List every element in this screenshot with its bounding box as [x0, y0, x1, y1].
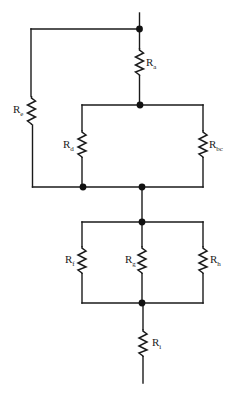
label-rbc: Rbc	[209, 138, 223, 153]
label-ri: Ri	[152, 336, 161, 351]
resistor-re	[28, 96, 36, 125]
resistor-ri	[139, 329, 147, 357]
circuit-diagram: Ra Re Rd Rbc Rf Rg Rh	[0, 0, 237, 402]
resistor-rh	[199, 246, 207, 274]
resistor-rf	[78, 246, 86, 274]
label-ra: Ra	[146, 56, 157, 71]
junction-top	[136, 26, 143, 33]
label-rf: Rf	[65, 253, 75, 268]
resistor-rbc	[199, 130, 207, 158]
junction-bottom-left	[80, 184, 87, 191]
junction-lower-top	[139, 219, 146, 226]
label-rd: Rd	[63, 138, 74, 153]
junction-bottom-center	[139, 184, 146, 191]
label-rh: Rh	[210, 253, 221, 268]
resistor-rg	[138, 246, 146, 274]
label-rg: Rg	[125, 253, 136, 268]
label-re: Re	[13, 103, 23, 118]
resistor-rd	[78, 130, 86, 158]
junction-lower-bottom	[139, 300, 146, 307]
resistor-ra	[136, 48, 144, 76]
junction-upper-middle	[137, 102, 144, 109]
